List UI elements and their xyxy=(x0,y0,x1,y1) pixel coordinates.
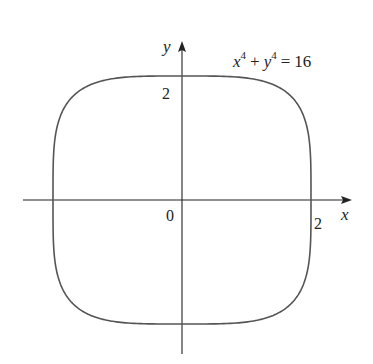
x-axis-label: x xyxy=(340,205,349,224)
graph: y x 0 2 2 x4+y4=16 xyxy=(0,0,373,364)
y-axis-label: y xyxy=(161,37,171,56)
origin-label: 0 xyxy=(166,207,174,224)
svg-text:x4+y4=16: x4+y4=16 xyxy=(232,49,311,71)
equation-label: x4+y4=16 xyxy=(232,49,311,71)
x-tick-label-2: 2 xyxy=(314,215,322,232)
y-tick-label-2: 2 xyxy=(162,85,170,102)
